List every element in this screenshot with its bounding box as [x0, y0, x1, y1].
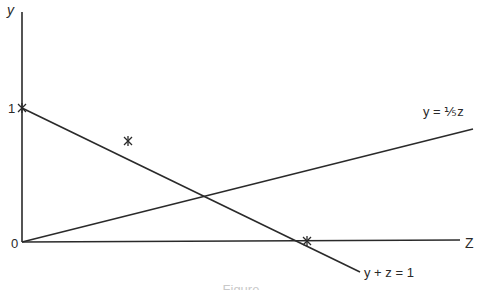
- diagram-canvas: [0, 0, 482, 290]
- figure: y 1 0 Z y + z = 1 y = ⅕z Figure: [0, 0, 482, 290]
- line-y-plus-z-equals-1: [22, 108, 360, 272]
- line-y-equals-fifth-z: [22, 129, 473, 242]
- z-axis: [22, 240, 460, 242]
- z-axis-label: Z: [465, 236, 474, 250]
- star-marker-mid: [124, 136, 132, 146]
- line-y-plus-z-label: y + z = 1: [364, 266, 414, 279]
- line-y-fifth-z-label: y = ⅕z: [423, 105, 464, 118]
- y-tick-1-label: 1: [8, 102, 15, 115]
- y-axis-label: y: [7, 3, 14, 17]
- origin-label: 0: [11, 237, 18, 250]
- star-marker-y1: [18, 103, 26, 113]
- figure-caption-partial: Figure: [0, 282, 482, 290]
